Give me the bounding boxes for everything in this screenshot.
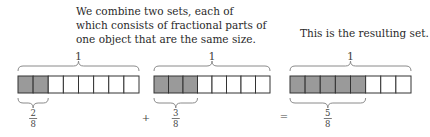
whole-label: 1 (347, 50, 354, 63)
unshaded-part (48, 76, 63, 93)
shaded-part (305, 76, 320, 93)
fraction-addition-diagram: 128138158+= (0, 0, 430, 137)
fraction-denominator: 8 (30, 119, 35, 129)
unshaded-part (227, 76, 242, 93)
unshaded-part (366, 76, 381, 93)
equals-sign: = (280, 111, 288, 122)
fraction-brace (18, 98, 48, 108)
fraction-denominator: 8 (325, 119, 330, 129)
shaded-part (154, 76, 169, 93)
shaded-part (335, 76, 350, 93)
unshaded-part (124, 76, 139, 93)
whole-label: 1 (209, 50, 216, 63)
unshaded-part (109, 76, 124, 93)
unshaded-part (381, 76, 396, 93)
fraction-brace (290, 98, 366, 108)
fraction-numerator: 2 (30, 108, 35, 118)
fraction-numerator: 3 (173, 108, 178, 118)
shaded-part (169, 76, 184, 93)
unshaded-part (241, 76, 256, 93)
shaded-part (351, 76, 366, 93)
fraction-numerator: 5 (325, 108, 330, 118)
unshaded-part (212, 76, 227, 93)
shaded-part (33, 76, 48, 93)
unshaded-part (198, 76, 213, 93)
shaded-part (18, 76, 33, 93)
shaded-part (290, 76, 305, 93)
whole-label: 1 (75, 50, 82, 63)
shaded-part (183, 76, 198, 93)
unshaded-part (63, 76, 78, 93)
plus-sign: + (142, 112, 150, 123)
fraction-brace (154, 98, 198, 108)
unshaded-part (396, 76, 411, 93)
fraction-denominator: 8 (173, 119, 178, 129)
shaded-part (320, 76, 335, 93)
unshaded-part (79, 76, 94, 93)
unshaded-part (94, 76, 109, 93)
unshaded-part (256, 76, 271, 93)
